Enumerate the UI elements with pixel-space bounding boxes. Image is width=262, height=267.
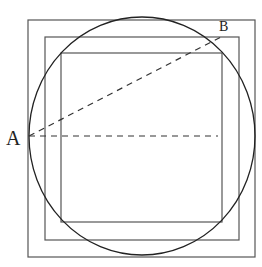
middle-square [45, 37, 239, 240]
label-point-b: B [219, 19, 228, 34]
geometry-diagram: A B [0, 0, 262, 267]
dashed-line-a-to-b [29, 37, 221, 136]
label-point-a: A [6, 127, 21, 149]
